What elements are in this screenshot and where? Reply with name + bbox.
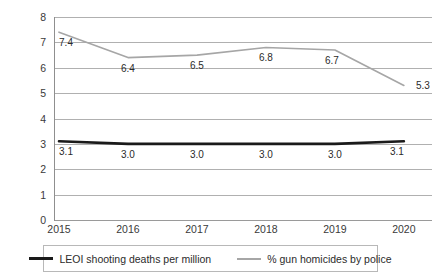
data-label-gun-2018: 6.8 [249,53,283,63]
y-tick-label-1: 1 [18,190,46,200]
legend-entry-leoi-deaths: LEOI shooting deaths per million [29,253,211,265]
y-tick-label-3: 3 [18,139,46,149]
legend-label-leoi-deaths: LEOI shooting deaths per million [59,253,211,265]
gridline-0 [54,220,432,221]
x-tick-label-2018: 2018 [243,224,289,235]
data-label-gun-2016: 6.4 [111,64,145,74]
y-tick-label-8: 8 [18,12,46,22]
x-tick-label-2015: 2015 [36,224,82,235]
chart-legend: LEOI shooting deaths per million % gun h… [43,245,378,272]
data-label-gun-2015: 7.4 [49,38,83,48]
gridline-3 [54,144,432,145]
x-tick-label-2019: 2019 [312,224,358,235]
data-label-gun-2017: 6.5 [180,61,214,71]
data-label-leoi-2019: 3.0 [318,150,352,160]
data-label-leoi-2015: 3.1 [49,147,83,157]
legend-label-gun-homicides: % gun homicides by police [267,253,391,265]
y-tick-label-5: 5 [18,88,46,98]
gridline-5 [54,93,432,94]
y-tick-label-4: 4 [18,114,46,124]
x-tick-label-2016: 2016 [105,224,151,235]
gridline-7 [54,42,432,43]
x-tick-label-2020: 2020 [381,224,427,235]
gridline-2 [54,169,432,170]
gridline-1 [54,195,432,196]
data-label-leoi-2016: 3.0 [111,150,145,160]
gridline-4 [54,119,432,120]
data-label-gun-2019: 6.7 [315,56,349,66]
y-tick-label-6: 6 [18,63,46,73]
y-tick-label-2: 2 [18,164,46,174]
data-label-leoi-2017: 3.0 [180,150,214,160]
legend-line-icon-leoi-deaths [29,257,53,260]
legend-entry-gun-homicides: % gun homicides by police [237,253,391,265]
data-label-leoi-2018: 3.0 [249,150,283,160]
data-label-gun-2020: 5.3 [406,81,436,91]
legend-line-icon-gun-homicides [237,258,261,260]
y-tick-label-7: 7 [18,37,46,47]
gridline-8 [54,17,432,18]
x-tick-label-2017: 2017 [174,224,220,235]
data-label-leoi-2020: 3.1 [380,147,414,157]
